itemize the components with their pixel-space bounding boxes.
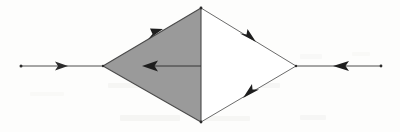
apex-bottom-node [200,121,203,124]
apex-top-node [200,7,203,10]
vertex-left-node [102,65,104,67]
unshaded-right-triangle [201,8,296,122]
incoming-right-arrow-tail-dot [380,65,383,68]
incoming-left-arrow-tail-dot [20,65,23,68]
vertex-right-node [295,65,297,67]
figure-canvas [0,0,400,132]
diagram-svg [0,0,400,132]
